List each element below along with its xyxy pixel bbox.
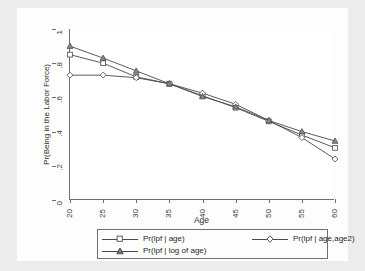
legend-item-pr-lpf-age[interactable]: Pr(lpf | age): [102, 233, 252, 245]
series-3: [67, 43, 338, 143]
legend-label: Pr(lpf | log of age): [143, 247, 206, 255]
legend-item-pr-lpf-log-of-age[interactable]: Pr(lpf | log of age): [102, 245, 252, 257]
x-axis-tick-mark: [169, 199, 170, 203]
x-axis-title-label: Age: [194, 215, 209, 225]
x-axis-tick-mark: [136, 199, 137, 203]
y-axis-tick: .4: [56, 123, 70, 141]
y-axis-tick: .2: [56, 157, 70, 175]
square-data-point: [101, 61, 106, 66]
y-axis-tick: 1: [56, 20, 70, 38]
y-axis-tick-label: .6: [56, 96, 64, 103]
diamond-marker-icon: [252, 234, 288, 244]
chart-figure: Pr(Being in the Labor Force) 0.2.4.6.81 …: [0, 0, 365, 271]
series-layer: [70, 29, 335, 200]
x-axis-tick-mark: [236, 199, 237, 203]
graph-canvas: Pr(Being in the Labor Force) 0.2.4.6.81 …: [17, 8, 348, 261]
legend-label: Pr(lpf | age,age2): [293, 235, 355, 243]
triangle-marker-icon: [102, 246, 138, 256]
x-axis-tick-mark: [269, 199, 270, 203]
square-data-point: [333, 145, 338, 150]
diamond-data-point: [100, 72, 106, 78]
x-axis-tick-mark: [203, 199, 204, 203]
legend-item-pr-lpf-age-age2[interactable]: Pr(lpf | age,age2): [252, 233, 355, 245]
plot-inner: 0.2.4.6.81 202530354045505560: [70, 29, 334, 199]
legend-row: Pr(lpf | log of age): [102, 245, 323, 257]
x-axis-tick-mark: [302, 199, 303, 203]
series-line: [70, 75, 335, 159]
diamond-data-point: [67, 72, 73, 78]
series-2: [67, 72, 338, 162]
y-axis-tick-label: .4: [56, 130, 64, 137]
legend-label: Pr(lpf | age): [143, 235, 185, 243]
x-axis-tick-mark: [70, 199, 71, 203]
x-axis-tick-mark: [103, 199, 104, 203]
series-1: [68, 52, 338, 150]
triangle-data-point: [67, 43, 73, 48]
y-axis-tick: .6: [56, 88, 70, 106]
x-axis-title: Age: [69, 215, 334, 225]
chart-legend: Pr(lpf | age) Pr(lpf | age,age2): [97, 229, 328, 259]
y-axis-tick-label: .2: [56, 164, 64, 171]
diamond-data-point: [332, 156, 338, 162]
y-axis-title-label: Pr(Being in the Labor Force): [43, 64, 51, 165]
y-axis-tick: .8: [56, 54, 70, 72]
y-axis-tick-label: .8: [56, 62, 64, 69]
legend-row: Pr(lpf | age) Pr(lpf | age,age2): [102, 233, 323, 245]
y-axis-tick-label: 0: [56, 201, 64, 205]
plot-region: 0.2.4.6.81 202530354045505560: [69, 29, 334, 200]
y-axis-title: Pr(Being in the Labor Force): [41, 29, 53, 200]
y-axis-tick-label: 1: [56, 30, 64, 34]
square-marker-icon: [102, 234, 138, 244]
x-axis-tick-mark: [335, 199, 336, 203]
